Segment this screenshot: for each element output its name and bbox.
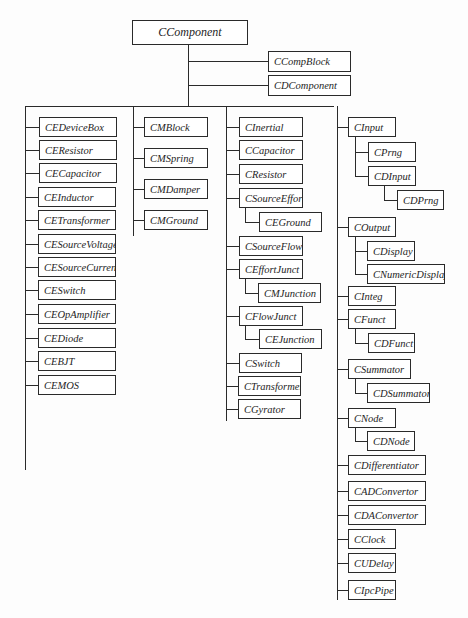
branch-ccompblock	[188, 61, 268, 62]
stub	[25, 220, 38, 221]
class-node-cdcomponent: CDComponent	[268, 75, 351, 96]
stub	[337, 369, 348, 370]
class-node-cudelay: CUDelay	[348, 553, 396, 573]
class-node-csummator: CSummator	[348, 359, 411, 379]
sub-spine	[355, 428, 356, 441]
stub	[355, 441, 367, 442]
class-node-cmdamper: CMDamper	[144, 179, 208, 199]
stub	[337, 127, 348, 128]
class-hierarchy-diagram: CComponent CCompBlockCDComponentCEDevice…	[0, 0, 468, 618]
stub	[337, 319, 348, 320]
class-node-cecapacitor: CECapacitor	[39, 163, 117, 183]
class-node-cediode: CEDiode	[38, 328, 116, 348]
sub-spine	[355, 379, 356, 393]
stub	[337, 515, 348, 516]
class-node-cedevicebox: CEDeviceBox	[39, 117, 117, 137]
stub	[25, 150, 39, 151]
stub	[226, 269, 239, 270]
stub	[337, 296, 348, 297]
class-node-cgyrator: CGyrator	[238, 399, 301, 419]
class-node-ctransformer: CTransformer	[238, 376, 301, 396]
stub	[226, 174, 239, 175]
stub	[337, 418, 348, 419]
stub	[245, 339, 259, 340]
col2-spine	[133, 106, 134, 236]
stub	[337, 465, 348, 466]
stub	[355, 343, 368, 344]
class-node-cflowjunct: CFlowJunct	[239, 306, 303, 326]
col3-spine	[226, 106, 227, 421]
col1-spine	[25, 106, 26, 470]
stub	[226, 198, 239, 199]
stub	[25, 197, 38, 198]
class-node-ceresistor: CEResistor	[39, 140, 117, 160]
class-node-cadconvertor: CADConvertor	[348, 481, 426, 501]
class-node-cinertial: CInertial	[239, 117, 303, 137]
class-node-ceswitch: CESwitch	[38, 280, 116, 300]
stub	[245, 293, 258, 294]
class-node-cdisplay: CDisplay	[367, 241, 415, 261]
stub	[25, 361, 38, 362]
class-node-cdaconvertor: CDAConvertor	[348, 505, 426, 525]
stub	[133, 220, 144, 221]
class-node-ceopamplifier: CEOpAmplifier	[38, 304, 116, 324]
stub	[226, 127, 239, 128]
stub	[355, 251, 367, 252]
stub	[133, 127, 144, 128]
class-node-cdnode: CDNode	[367, 431, 415, 451]
class-node-cinteg: CInteg	[348, 286, 396, 306]
stub	[337, 590, 348, 591]
stub	[226, 386, 238, 387]
class-node-cdsummator: CDSummator	[367, 383, 430, 403]
sub-spine	[355, 237, 356, 274]
stub	[25, 127, 39, 128]
class-node-coutput: COutput	[348, 217, 396, 237]
class-node-cetransformer: CETransformer	[38, 210, 116, 230]
sub-spine	[384, 186, 385, 200]
stub	[226, 409, 238, 410]
class-node-cmblock: CMBlock	[144, 117, 208, 137]
stub	[245, 222, 259, 223]
class-node-ccompblock: CCompBlock	[268, 51, 351, 72]
class-node-cmjunction: CMJunction	[258, 283, 321, 303]
class-node-csourceflow: CSourceFlow	[239, 236, 303, 256]
stub	[337, 563, 348, 564]
stub	[226, 246, 239, 247]
stub	[25, 244, 38, 245]
class-node-cprng: CPrng	[368, 142, 416, 162]
class-node-cesourcevoltage: CESourceVoltage	[38, 234, 116, 254]
class-node-cswitch: CSwitch	[239, 353, 302, 373]
stub	[337, 227, 348, 228]
stub	[337, 539, 348, 540]
class-node-cfunct: CFunct	[348, 309, 396, 329]
class-node-ceinductor: CEInductor	[38, 187, 116, 207]
class-node-cesourcecurrent: CESourceCurrent	[38, 257, 116, 277]
sub-spine	[245, 208, 246, 222]
class-node-ceground: CEGround	[259, 212, 322, 232]
class-node-cebjt: CEBJT	[38, 351, 116, 371]
stub	[25, 267, 38, 268]
stub	[25, 314, 38, 315]
class-node-ccapacitor: CCapacitor	[239, 140, 303, 160]
sub-spine	[245, 326, 246, 339]
class-node-ccomponent: CComponent	[132, 20, 248, 45]
stub	[25, 173, 39, 174]
class-node-cnode: CNode	[348, 408, 396, 428]
class-node-cdifferentiator: CDifferentiator	[348, 455, 426, 475]
class-node-cdinput: CDInput	[368, 166, 416, 186]
class-node-cclock: CClock	[348, 529, 396, 549]
trunk-line	[188, 45, 189, 107]
class-node-cejunction: CEJunction	[259, 329, 322, 349]
class-node-cemos: CEMOS	[38, 375, 116, 395]
class-node-cnumericdisplay: CNumericDisplay	[367, 264, 445, 284]
sub-spine	[355, 137, 356, 176]
class-node-cmspring: CMSpring	[144, 148, 208, 168]
stub	[226, 316, 239, 317]
stub	[25, 338, 38, 339]
stub	[25, 290, 38, 291]
stub	[355, 152, 368, 153]
horizontal-bus	[25, 106, 334, 107]
stub	[355, 274, 367, 275]
class-node-cmground: CMGround	[144, 210, 208, 230]
stub	[25, 385, 38, 386]
